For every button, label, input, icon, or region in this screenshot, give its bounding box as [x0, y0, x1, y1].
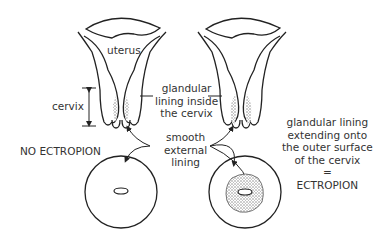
label-glandular-inside: glandular lining inside the cervix: [155, 82, 218, 120]
label-smooth-external: smooth external lining: [164, 131, 207, 169]
glandular-left-2: [125, 96, 129, 122]
os-right: [238, 189, 252, 195]
uterus-left: [78, 18, 166, 128]
glandular-left-1: [113, 96, 117, 122]
label-no-ectropion: NO ECTROPION: [20, 145, 101, 158]
os-left: [114, 188, 128, 194]
label-ectropion-definition: glandular lining extending onto the oute…: [282, 116, 373, 191]
cervix-bracket: [82, 88, 96, 126]
label-uterus: uterus: [107, 44, 141, 57]
label-cervix: cervix: [52, 100, 84, 113]
cervix-face-normal: [85, 156, 157, 228]
